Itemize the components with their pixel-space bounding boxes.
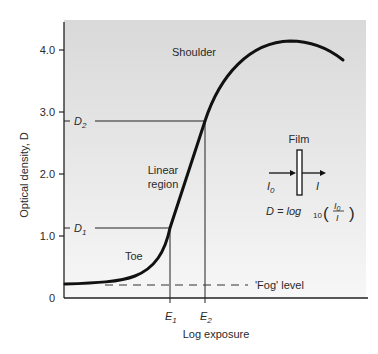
e1-label: E1 (165, 310, 177, 325)
svg-text:(: ( (323, 204, 329, 223)
svg-text:): ) (349, 204, 355, 223)
svg-text:10: 10 (313, 211, 322, 220)
transmitted-intensity-label: I (316, 180, 319, 192)
characteristic-curve-diagram: 4.0 3.0 2.0 1.0 0 Optical density, D D2 … (0, 0, 378, 354)
y-axis-label: Optical density, D (18, 132, 30, 217)
y-tick-0: 0 (49, 292, 55, 304)
e2-label: E2 (200, 310, 212, 325)
linear-region-label-1: Linear (148, 164, 179, 176)
film-strip-icon (297, 150, 302, 195)
toe-label: Toe (125, 250, 143, 262)
svg-text:D = log: D = log (266, 205, 302, 217)
shoulder-label: Shoulder (172, 46, 216, 58)
y-ticks (59, 50, 64, 236)
y-tick-1: 1.0 (40, 230, 55, 242)
film-label: Film (289, 133, 310, 145)
y-tick-4: 4.0 (40, 44, 55, 56)
y-tick-3: 3.0 (40, 106, 55, 118)
x-axis-label: Log exposure (183, 328, 250, 340)
y-tick-2: 2.0 (40, 168, 55, 180)
fog-level-label: 'Fog' level (255, 279, 304, 291)
plot-background (64, 20, 366, 298)
linear-region-label-2: region (148, 178, 179, 190)
